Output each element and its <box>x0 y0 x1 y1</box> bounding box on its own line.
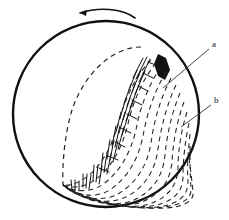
dashed-arc <box>63 63 156 187</box>
nested-dashed-arcs <box>63 60 193 208</box>
sphere-outline <box>13 21 199 207</box>
label-callouts: ab <box>163 39 219 127</box>
hatch-stroke <box>130 85 139 108</box>
hatch-stroke <box>93 165 94 181</box>
dashed-arc <box>63 67 161 191</box>
hatch-stroke <box>86 174 87 188</box>
rotation-arrow-shaft <box>80 9 135 18</box>
label-b: b <box>214 95 219 105</box>
dark-filled-patch <box>154 54 170 80</box>
leader-line-a <box>163 49 209 88</box>
hatch-stroke <box>89 175 91 189</box>
sphere-diagram: ab <box>0 0 229 220</box>
rotation-arrow-head-icon <box>80 10 87 16</box>
label-a: a <box>212 39 216 49</box>
figure-container: ab <box>0 0 229 220</box>
rotation-arrow-group <box>80 9 135 18</box>
hatch-stroke <box>127 114 137 119</box>
